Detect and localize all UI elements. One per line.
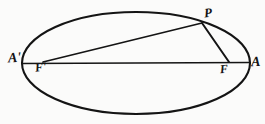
label-vertex-a: A: [251, 55, 261, 69]
focal-radius-p-fprime: [43, 23, 202, 62]
major-axis-line: [22, 63, 250, 64]
label-focus-f: F: [219, 63, 228, 76]
label-point-p: P: [203, 6, 212, 20]
label-focus-f-prime: F': [34, 60, 47, 73]
ellipse-figure: A' A F' F P: [0, 0, 265, 124]
label-vertex-a-prime: A': [8, 51, 22, 66]
focal-radius-p-f: [202, 23, 229, 62]
